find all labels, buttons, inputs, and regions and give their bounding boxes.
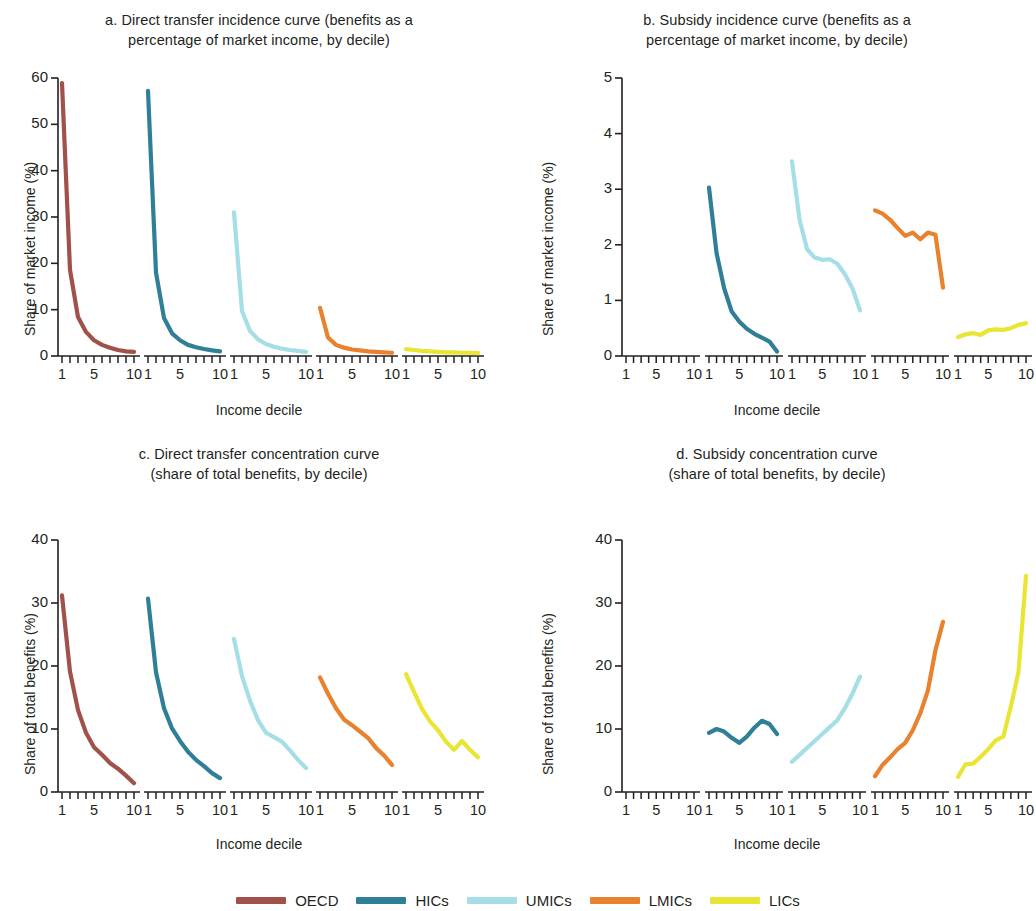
panel-a-ytick-40: 40 — [6, 161, 48, 178]
panel-a-series-lmics — [320, 308, 392, 353]
panel-b-oecd-xtick-10: 10 — [686, 366, 702, 382]
panel-a-oecd-xtick-1: 1 — [58, 366, 66, 382]
panel-b-lics-xtick-5: 5 — [984, 366, 992, 382]
legend-label-lics: LICs — [769, 892, 800, 909]
legend-item-lics[interactable]: LICs — [710, 892, 800, 909]
panel-d-plot: Share of total benefits (%) Income decil… — [518, 440, 1036, 860]
panel-c-xlabel: Income decile — [0, 836, 518, 852]
panel-c-ytick-30: 30 — [6, 593, 48, 610]
panel-d-ytick-40: 40 — [570, 530, 612, 547]
panel-c-series-oecd — [62, 595, 134, 783]
panel-c: c. Direct transfer concentration curve (… — [0, 440, 518, 860]
panel-a-lmics-xtick-1: 1 — [316, 366, 324, 382]
panel-a-series-umics — [234, 212, 306, 351]
panel-c-svg — [0, 440, 518, 860]
panel-d-lmics-xtick-1: 1 — [871, 802, 879, 818]
panel-c-lmics-xtick-5: 5 — [348, 802, 356, 818]
panel-d-lics-xtick-1: 1 — [954, 802, 962, 818]
panel-c-plot: Share of total benefits (%) Income decil… — [0, 440, 518, 860]
panel-a-lics-xtick-5: 5 — [434, 366, 442, 382]
panel-d-lics-xtick-5: 5 — [984, 802, 992, 818]
panel-d-series-lmics — [875, 622, 943, 776]
panel-d-hics-xtick-10: 10 — [769, 802, 785, 818]
legend-swatch-lmics — [590, 897, 640, 904]
panel-b-oecd-xtick-5: 5 — [652, 366, 660, 382]
panel-b-umics-xtick-10: 10 — [852, 366, 868, 382]
panel-d: d. Subsidy concentration curve (share of… — [518, 440, 1036, 860]
legend-label-oecd: OECD — [295, 892, 338, 909]
panel-a-oecd-xtick-5: 5 — [90, 366, 98, 382]
panel-b-xlabel: Income decile — [518, 402, 1036, 418]
panel-c-lics-xtick-5: 5 — [434, 802, 442, 818]
panel-c-oecd-xtick-5: 5 — [90, 802, 98, 818]
panel-a-lics-xtick-10: 10 — [470, 366, 486, 382]
panel-b-hics-xtick-1: 1 — [705, 366, 713, 382]
panel-b-lics-xtick-10: 10 — [1018, 366, 1034, 382]
panel-a-ytick-50: 50 — [6, 114, 48, 131]
legend-swatch-umics — [467, 897, 517, 904]
panel-b-hics-xtick-10: 10 — [769, 366, 785, 382]
panel-a-hics-xtick-5: 5 — [176, 366, 184, 382]
panel-b-ytick-0: 0 — [570, 346, 612, 363]
panel-c-umics-xtick-5: 5 — [262, 802, 270, 818]
panel-c-ytick-40: 40 — [6, 530, 48, 547]
panel-c-series-hics — [148, 599, 220, 779]
panel-b-series-lmics — [875, 210, 943, 287]
panel-d-lmics-xtick-10: 10 — [935, 802, 951, 818]
panel-b-plot: Share of market income (%) Income decile… — [518, 6, 1036, 426]
panel-b-ytick-1: 1 — [570, 290, 612, 307]
panel-a-lmics-xtick-10: 10 — [384, 366, 400, 382]
panel-b-series-lics — [958, 323, 1026, 337]
panel-b-series-umics — [792, 161, 860, 310]
panel-d-ytick-0: 0 — [570, 782, 612, 799]
legend-item-oecd[interactable]: OECD — [236, 892, 338, 909]
panel-b: b. Subsidy incidence curve (benefits as … — [518, 6, 1036, 426]
panel-c-lmics-xtick-1: 1 — [316, 802, 324, 818]
panel-c-lics-xtick-10: 10 — [470, 802, 486, 818]
panel-c-series-lics — [406, 674, 478, 757]
panel-d-hics-xtick-1: 1 — [705, 802, 713, 818]
panel-b-series-hics — [709, 188, 777, 352]
panel-b-lics-xtick-1: 1 — [954, 366, 962, 382]
panel-a-umics-xtick-10: 10 — [298, 366, 314, 382]
panel-b-ytick-5: 5 — [570, 68, 612, 85]
panel-b-lmics-xtick-10: 10 — [935, 366, 951, 382]
panel-b-ytick-3: 3 — [570, 179, 612, 196]
panel-d-ytick-10: 10 — [570, 719, 612, 736]
panel-d-ytick-30: 30 — [570, 593, 612, 610]
panel-d-series-lics — [958, 576, 1026, 777]
panel-c-hics-xtick-10: 10 — [212, 802, 228, 818]
panel-d-lics-xtick-10: 10 — [1018, 802, 1034, 818]
panel-a-xlabel: Income decile — [0, 402, 518, 418]
legend-swatch-oecd — [236, 897, 286, 904]
legend-item-lmics[interactable]: LMICs — [590, 892, 692, 909]
panel-d-umics-xtick-5: 5 — [818, 802, 826, 818]
panel-c-ytick-0: 0 — [6, 782, 48, 799]
panel-d-hics-xtick-5: 5 — [735, 802, 743, 818]
panel-d-umics-xtick-10: 10 — [852, 802, 868, 818]
legend-item-hics[interactable]: HICs — [356, 892, 448, 909]
panel-b-umics-xtick-5: 5 — [818, 366, 826, 382]
panel-c-lmics-xtick-10: 10 — [384, 802, 400, 818]
panel-a-plot: Share of market income (%) Income decile… — [0, 6, 518, 426]
panel-d-oecd-xtick-10: 10 — [686, 802, 702, 818]
panel-a-series-lics — [406, 349, 478, 353]
panel-c-series-lmics — [320, 677, 392, 765]
panel-a: a. Direct transfer incidence curve (bene… — [0, 6, 518, 426]
panel-b-oecd-xtick-1: 1 — [622, 366, 630, 382]
panel-c-series-umics — [234, 639, 306, 768]
panel-c-oecd-xtick-1: 1 — [58, 802, 66, 818]
panel-a-svg — [0, 6, 518, 426]
legend-item-umics[interactable]: UMICs — [467, 892, 572, 909]
panel-c-lics-xtick-1: 1 — [402, 802, 410, 818]
panel-b-lmics-xtick-5: 5 — [901, 366, 909, 382]
panel-a-ytick-60: 60 — [6, 68, 48, 85]
panel-a-ytick-0: 0 — [6, 346, 48, 363]
legend-swatch-hics — [356, 897, 406, 904]
panel-a-series-hics — [148, 91, 220, 351]
panel-b-ytick-4: 4 — [570, 124, 612, 141]
panel-d-series-umics — [792, 677, 860, 762]
panel-b-ytick-2: 2 — [570, 235, 612, 252]
legend-label-hics: HICs — [415, 892, 448, 909]
panel-c-hics-xtick-5: 5 — [176, 802, 184, 818]
